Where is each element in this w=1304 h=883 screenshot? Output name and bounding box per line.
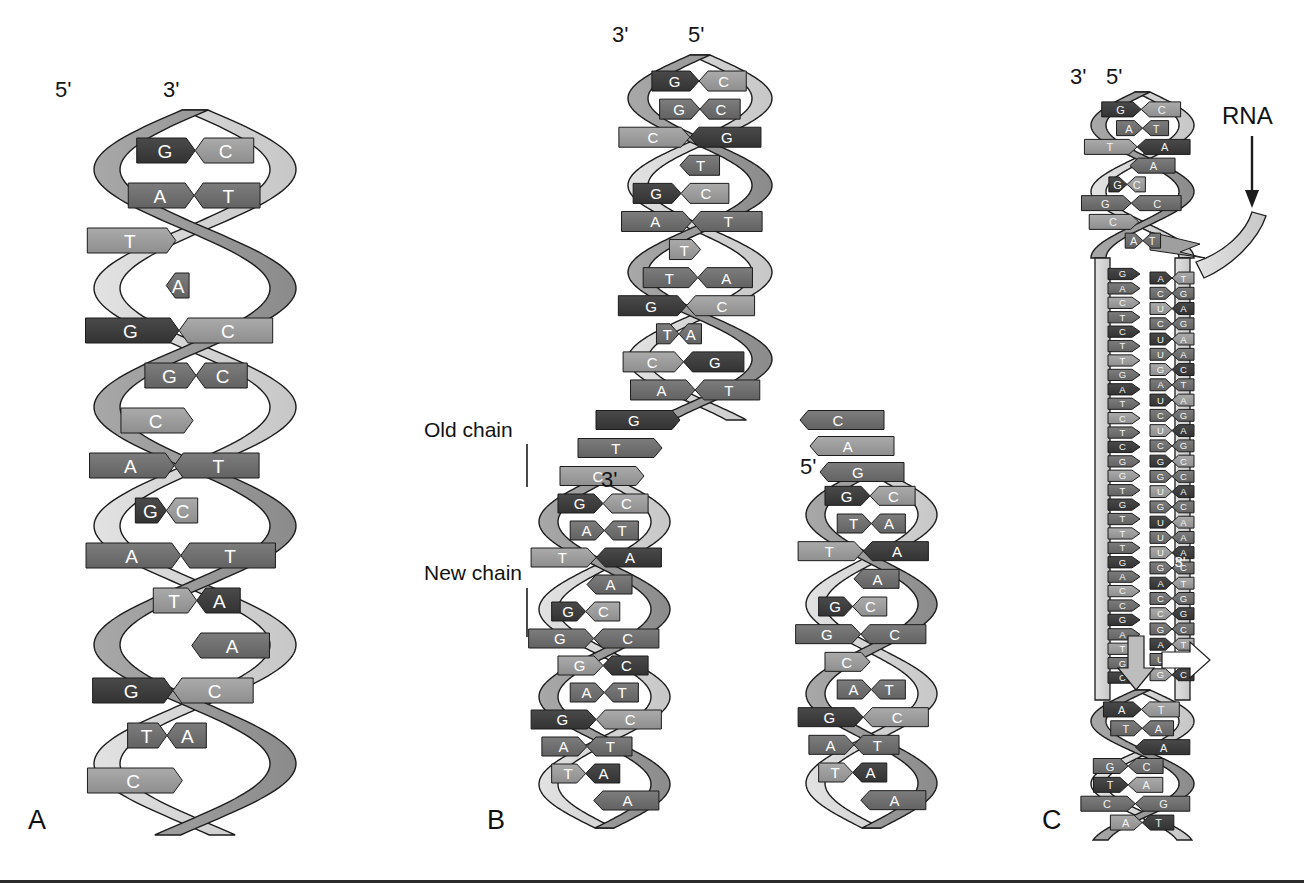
base-pair: TA [643,268,752,288]
base-letter-left: G [829,598,841,615]
base-letter-left: C [1157,410,1164,421]
base-letter-left: T [663,326,672,343]
base-letter-left: U [1157,425,1164,436]
base-pair: AT [1150,638,1194,650]
unpaired-base: G [820,463,904,482]
base-letter: T [1119,312,1125,323]
panel-c-five-prime-label: 5' [1106,64,1122,89]
unpaired-base: G [1108,557,1140,568]
base-letter: T [1119,355,1125,366]
base-letter-right: T [873,737,882,754]
base-pair: AT [1103,702,1179,717]
base-pair: AT [1150,379,1194,391]
base-letter-left: G [123,321,138,342]
base-letter-left: T [665,270,674,287]
base-letter: A [1119,283,1126,294]
base-pair: C [1089,214,1139,229]
base-letter-right: T [1155,817,1162,829]
base-pair: TA [128,723,207,748]
base-pair: UA [1150,394,1194,406]
base-letter-right: T [724,382,733,399]
base-letter-left: G [1106,761,1115,773]
base-pair: A [1130,158,1175,173]
base-letter-right: T [223,186,235,207]
old-chain-callout-label: Old chain [424,418,513,441]
base-letter: G [1119,470,1126,481]
base-pair: CG [1150,409,1194,421]
base-letter-left: C [1103,798,1111,810]
base-letter-left: C [1157,608,1164,619]
base-letter-right: C [892,709,903,726]
base-pair: C [121,408,193,433]
base-letter-right: T [1181,639,1187,650]
base-letter-right: T [213,456,225,477]
base-letter-right: C [216,366,230,387]
rna-arrow-head [1245,190,1259,208]
base-letter-left: A [849,681,859,698]
base-letter-right: A [1161,141,1169,153]
base-letter: A [1119,384,1126,395]
base-letter-right: A [1143,779,1151,791]
unpaired-base: C [800,411,884,430]
base-letter-right: A [1160,742,1168,754]
base-letter-right: C [621,657,632,674]
base-pair: AT [1150,272,1194,284]
base-letter: G [1119,658,1126,669]
base-letter-left: T [825,543,834,560]
base-letter: C [1119,413,1126,424]
base-pair: GC [1150,623,1194,635]
base-pair: C [825,652,870,671]
base-letter-right: G [1159,798,1168,810]
base-letter-left: A [559,738,569,755]
base-letter-right: G [1180,440,1187,451]
base-letter-left: G [124,681,139,702]
base-letter-left: T [680,242,689,259]
base-letter: G [1119,557,1126,568]
base-letter-right: C [889,626,900,643]
base-pair: T [669,240,700,260]
base-letter-right: A [892,543,902,560]
base-letter-left: C [1109,216,1117,228]
base-pair: T [680,155,720,175]
unpaired-base: T [1108,528,1140,539]
base-letter: C [1119,297,1126,308]
base-letter-left: T [124,231,136,252]
base-letter-right: C [1180,456,1187,467]
base-letter-right: C [1153,198,1161,210]
base-letter-right: A [172,276,185,297]
unpaired-base: C [1108,326,1140,337]
unpaired-base: G [1108,456,1140,467]
base-pair: A [192,633,270,658]
base-pair: A [594,791,659,810]
base-letter-left: A [657,382,667,399]
base-letter-right: C [1142,761,1150,773]
base-pair: GC [1102,102,1181,117]
base-letter-left: A [1157,578,1164,589]
base-letter: T [1119,528,1125,539]
panel-c: GACTCTTGATCTCGGTGTTTGACCGATGCATCGUACGUAU… [1042,64,1273,840]
base-letter-left: G [821,626,833,643]
base-letter-right: C [1133,179,1141,191]
base-letter-left: U [1157,395,1164,406]
base-pair: GC [137,138,254,163]
figure-canvas: GCATTAGCGCCATGCATTAAGCTAC 5'3'A GCGCCGTG… [0,0,1304,883]
base-letter-left: A [124,456,137,477]
base-pair: TA [552,764,620,783]
base-letter-left: T [141,726,153,747]
unpaired-base: G [1108,614,1140,625]
unpaired-base: C [1108,600,1140,611]
base-letter-left: G [1157,669,1164,680]
base-letter-right: C [622,630,633,647]
base-pair: A [861,791,926,810]
base-letter-right: A [1150,160,1158,172]
base-letter-left: G [1157,562,1164,573]
base-letter-left: A [1122,817,1130,829]
base-pair: GC [552,602,620,621]
base-letter-right: C [718,73,729,90]
base-pair: CG [1150,592,1194,604]
base-letter-right: C [715,101,726,118]
base-letter: A [843,438,853,455]
panel-b-five-prime-label: 5' [688,22,704,47]
base-letter-right: C [865,598,876,615]
base-pair: GC [798,708,928,727]
